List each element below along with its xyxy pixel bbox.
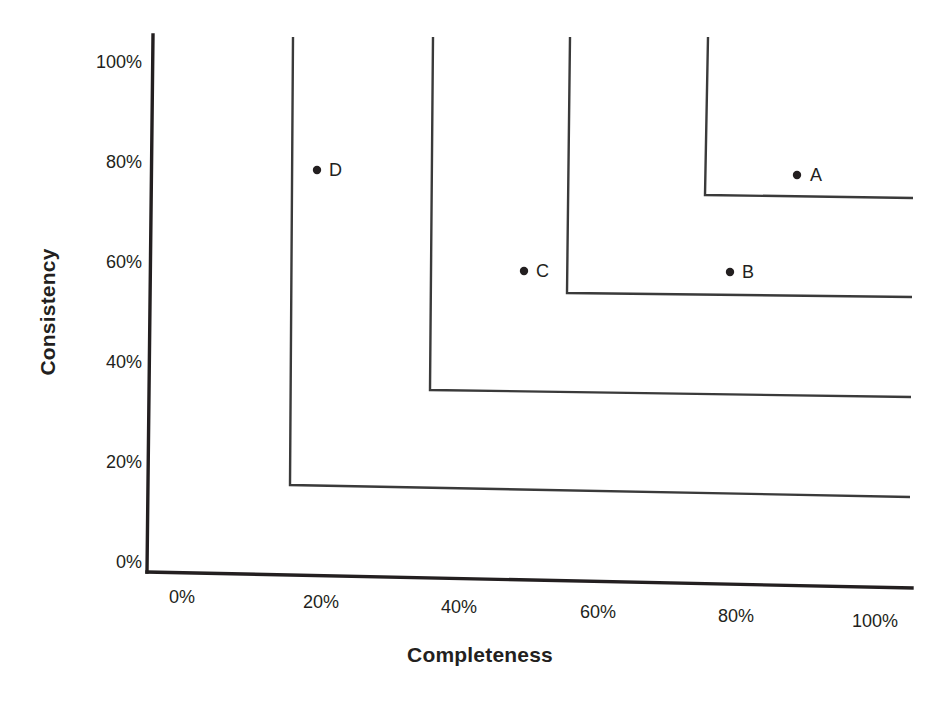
data-point-label-B: B (742, 262, 754, 283)
contour-outer (290, 37, 910, 497)
data-point-marker-A[interactable] (793, 171, 801, 179)
x-axis-line (147, 572, 912, 588)
contour-inner (705, 37, 913, 198)
y-axis-line (147, 35, 153, 572)
data-point-marker-C[interactable] (520, 267, 528, 275)
plot-area (0, 0, 944, 718)
data-point-label-C: C (536, 261, 549, 282)
data-point-label-A: A (810, 165, 822, 186)
data-point-marker-D[interactable] (313, 166, 321, 174)
chart-canvas: Consistency Completeness 100% 80% 60% 40… (0, 0, 944, 718)
data-point-marker-B[interactable] (726, 268, 734, 276)
contour-third (567, 37, 912, 297)
data-point-label-D: D (329, 160, 342, 181)
contour-second (430, 37, 911, 397)
